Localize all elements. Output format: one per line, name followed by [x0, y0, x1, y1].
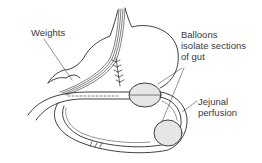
weights-label: Weights	[31, 27, 65, 38]
tube-bundle	[60, 9, 119, 92]
balloons-label: Balloons isolate sections of gut	[181, 29, 246, 62]
balloons-label-line-3: of gut	[181, 51, 246, 62]
catheter-upper	[28, 92, 140, 115]
jejunal-label-line-2: perfusion	[198, 107, 237, 118]
gut-perfusion-illustration	[0, 0, 262, 163]
diagram-canvas: Weights Balloons isolate sections of gut…	[0, 0, 262, 163]
jejunal-label-line-1: Jejunal	[198, 96, 237, 107]
jejunal-leader	[182, 101, 197, 112]
weights-chain	[112, 58, 124, 86]
balloon-lower	[154, 120, 182, 146]
balloons-label-line-2: isolate sections	[181, 40, 246, 51]
weights-leader	[44, 39, 72, 80]
balloons-label-line-1: Balloons	[181, 29, 246, 40]
jejunal-perfusion-label: Jejunal perfusion	[198, 96, 237, 118]
